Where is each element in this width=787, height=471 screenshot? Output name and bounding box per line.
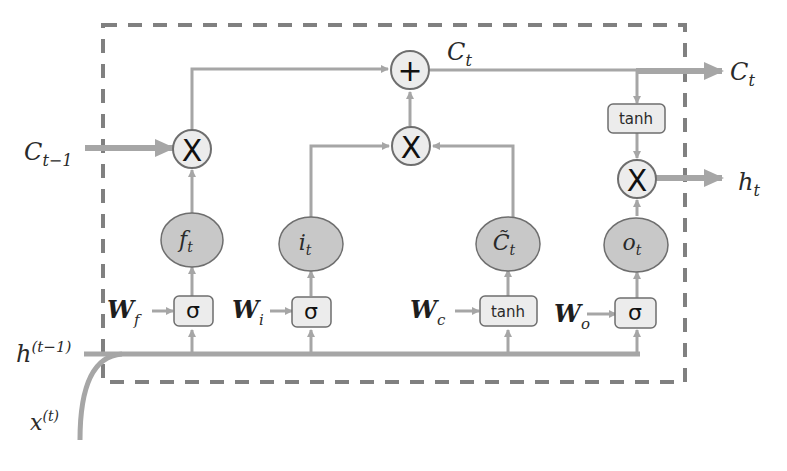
svg-text:σ: σ: [304, 299, 318, 324]
input-sigma-box: σ: [292, 297, 331, 327]
forget-multiply-operator: X: [173, 130, 211, 168]
hidden-input-bus: [80, 354, 640, 440]
lstm-cell-diagram: + X X X tanh ft it C̃t ot σ σ: [0, 0, 787, 471]
forget-sigma-box: σ: [174, 296, 213, 326]
candidate-node: C̃t: [476, 217, 540, 271]
input-multiply-operator: X: [392, 127, 430, 165]
output-sigma-box: σ: [615, 298, 656, 328]
svg-text:+: +: [397, 53, 422, 88]
input-gate-node: it: [279, 217, 343, 271]
svg-text:X: X: [627, 163, 648, 198]
output-weight-label: Wo: [554, 299, 590, 333]
cell-prev-label: Ct−1: [24, 138, 72, 170]
cell-out-label: Ct: [730, 58, 755, 90]
forget-gate-node: ft: [161, 213, 223, 267]
svg-text:X: X: [401, 130, 422, 165]
cell-state-inner-label: Ct: [447, 38, 472, 70]
svg-text:tanh: tanh: [491, 303, 525, 321]
svg-text:σ: σ: [628, 300, 642, 325]
x-input-label: x(t): [30, 408, 59, 435]
weight-arrows: [152, 311, 616, 314]
output-gate-node: ot: [604, 218, 668, 272]
input-weight-label: Wi: [232, 295, 264, 329]
candidate-weight-label: Wc: [410, 295, 446, 329]
candidate-tanh-box: tanh: [480, 296, 537, 326]
output-tanh-box: tanh: [608, 104, 665, 133]
svg-text:X: X: [182, 133, 203, 168]
svg-text:tanh: tanh: [619, 110, 653, 128]
forget-weight-label: Wf: [107, 295, 142, 329]
hidden-out-label: ht: [738, 168, 760, 200]
svg-text:σ: σ: [186, 298, 200, 323]
hidden-prev-label: h(t−1): [16, 338, 71, 368]
add-operator: +: [391, 51, 429, 89]
output-multiply-operator: X: [618, 160, 656, 198]
box-to-node-arrows: [192, 267, 637, 298]
bus-to-gates: [192, 330, 637, 352]
